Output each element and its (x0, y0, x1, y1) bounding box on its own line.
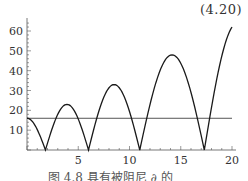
axis-ticks (27, 23, 232, 150)
chart-axes (27, 18, 236, 150)
chart-series (27, 27, 232, 150)
x-tick-label: 20 (225, 154, 239, 167)
y-tick-label: 20 (9, 104, 23, 117)
data-curve (27, 27, 232, 150)
y-tick-label: 50 (9, 45, 23, 58)
y-tick-label: 30 (9, 85, 23, 98)
y-tick-label: 60 (9, 25, 23, 38)
x-tick-label: 5 (75, 154, 82, 167)
y-tick-label: 40 (9, 65, 23, 78)
x-tick-label: 15 (174, 154, 188, 167)
line-chart: 5101520102030405060 (0, 0, 248, 181)
y-tick-label: 10 (9, 124, 23, 137)
x-tick-label: 10 (123, 154, 137, 167)
figure-caption: 图 4.8 具有被阻尼 ∂ 的 (48, 168, 173, 181)
